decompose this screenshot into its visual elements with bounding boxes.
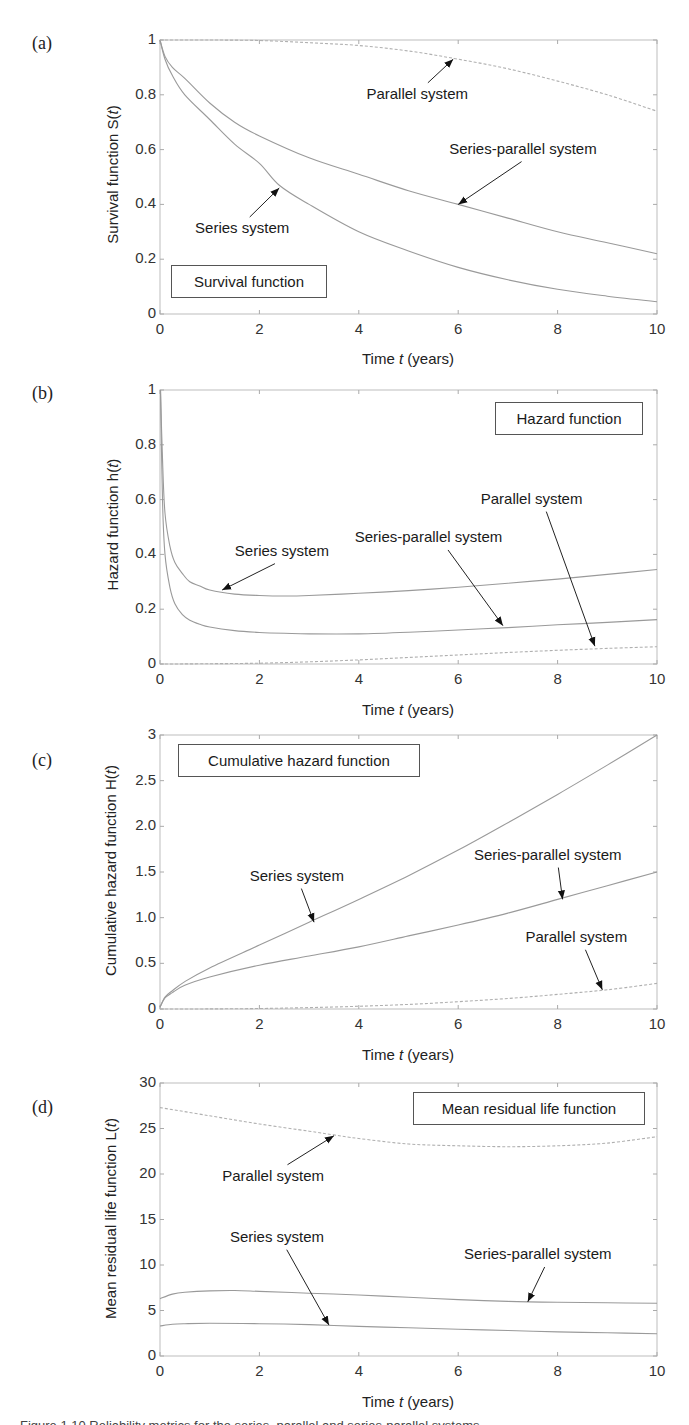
y-tick-label: 1 <box>116 380 156 397</box>
x-tick-label: 10 <box>642 1362 672 1379</box>
x-tick-label: 0 <box>145 1015 175 1032</box>
y-tick-label: 15 <box>116 1210 156 1227</box>
x-axis-label-b: Time t (years) <box>308 701 508 718</box>
annotation-label: Series-parallel system <box>355 528 503 545</box>
annotation-arrow <box>301 889 314 923</box>
panel-letter-a: (a) <box>32 33 52 54</box>
chart-title-box-a: Survival function <box>171 265 327 298</box>
y-tick-label: 0 <box>116 304 156 321</box>
y-tick-label: 0 <box>116 654 156 671</box>
annotation-label: Series system <box>250 867 344 884</box>
y-tick-label: 1.0 <box>116 908 156 925</box>
x-tick-label: 2 <box>244 1015 274 1032</box>
x-tick-label: 4 <box>344 1362 374 1379</box>
y-tick-label: 0.8 <box>116 85 156 102</box>
annotation-arrow <box>528 1267 545 1302</box>
annotation-label: Parallel system <box>366 85 468 102</box>
y-tick-label: 20 <box>116 1164 156 1181</box>
curve-parallel-systemb <box>160 647 657 664</box>
x-tick-label: 2 <box>244 320 274 337</box>
annotation-arrow <box>558 868 562 900</box>
y-tick-label: 1.5 <box>116 862 156 879</box>
annotation-arrow <box>250 188 280 217</box>
x-tick-label: 4 <box>344 670 374 687</box>
curve-series-systemd <box>160 1323 657 1334</box>
y-tick-label: 0.2 <box>116 599 156 616</box>
y-tick-label: 0.4 <box>116 544 156 561</box>
curve-series-parallel-systemd <box>160 1290 657 1303</box>
x-tick-label: 0 <box>145 320 175 337</box>
x-tick-label: 4 <box>344 320 374 337</box>
y-tick-label: 0 <box>116 1346 156 1363</box>
y-tick-label: 25 <box>116 1119 156 1136</box>
x-tick-label: 10 <box>642 1015 672 1032</box>
annotation-label: Series-parallel system <box>449 140 597 157</box>
x-axis-label-c: Time t (years) <box>308 1046 508 1063</box>
y-tick-label: 1 <box>116 30 156 47</box>
panel-letter-b: (b) <box>32 383 53 404</box>
y-tick-label: 0.6 <box>116 490 156 507</box>
y-tick-label: 30 <box>116 1073 156 1090</box>
annotation-label: Series-parallel system <box>464 1245 612 1262</box>
y-tick-label: 3 <box>116 725 156 742</box>
y-tick-label: 0.8 <box>116 435 156 452</box>
y-tick-label: 0.2 <box>116 249 156 266</box>
y-tick-label: 5 <box>116 1301 156 1318</box>
chart-title-box-c: Cumulative hazard function <box>178 744 420 777</box>
annotation-label: Series system <box>195 219 289 236</box>
annotation-arrow <box>287 1136 333 1165</box>
annotation-label: Parallel system <box>481 490 583 507</box>
panel-letter-c: (c) <box>32 750 52 771</box>
y-tick-label: 10 <box>116 1255 156 1272</box>
annotation-label: Series system <box>230 1228 324 1245</box>
x-tick-label: 2 <box>244 670 274 687</box>
curve-parallel-systemc <box>160 983 657 1009</box>
curve-series-systema <box>160 40 657 302</box>
figure-caption: Figure 1.10 Reliability metrics for the … <box>20 1416 480 1425</box>
x-axis-label-a: Time t (years) <box>308 350 508 367</box>
x-tick-label: 0 <box>145 1362 175 1379</box>
annotation-label: Parallel system <box>525 928 627 945</box>
annotation-label: Series-parallel system <box>474 846 622 863</box>
x-tick-label: 8 <box>543 670 573 687</box>
x-tick-label: 0 <box>145 670 175 687</box>
y-tick-label: 2.5 <box>116 771 156 788</box>
y-tick-label: 2.0 <box>116 816 156 833</box>
annotation-arrow <box>585 950 602 990</box>
y-tick-label: 0.6 <box>116 140 156 157</box>
chart-title-box-d: Mean residual life function <box>413 1092 645 1125</box>
annotation-arrow <box>287 1250 329 1325</box>
annotation-arrow <box>428 59 453 83</box>
x-tick-label: 8 <box>543 1362 573 1379</box>
x-tick-label: 4 <box>344 1015 374 1032</box>
x-tick-label: 8 <box>543 1015 573 1032</box>
chart-title-box-b: Hazard function <box>495 402 643 435</box>
panel-letter-d: (d) <box>32 1097 53 1118</box>
y-tick-label: 0.5 <box>116 953 156 970</box>
x-tick-label: 8 <box>543 320 573 337</box>
annotation-arrow <box>222 564 275 590</box>
y-tick-label: 0.4 <box>116 194 156 211</box>
x-tick-label: 6 <box>443 320 473 337</box>
x-tick-label: 6 <box>443 1362 473 1379</box>
y-tick-label: 0 <box>116 999 156 1016</box>
x-tick-label: 10 <box>642 670 672 687</box>
annotation-label: Series system <box>235 542 329 559</box>
x-tick-label: 6 <box>443 1015 473 1032</box>
annotation-label: Parallel system <box>222 1167 324 1184</box>
x-axis-label-d: Time t (years) <box>308 1393 508 1410</box>
x-tick-label: 2 <box>244 1362 274 1379</box>
x-tick-label: 10 <box>642 320 672 337</box>
annotation-arrow <box>458 162 521 205</box>
x-tick-label: 6 <box>443 670 473 687</box>
